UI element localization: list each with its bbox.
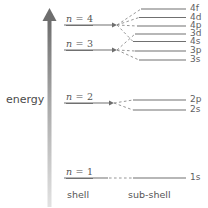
shell-label-n2: n = 2	[66, 92, 93, 104]
subshell-label-1s: 1s	[190, 173, 200, 182]
branch-origin-markers	[109, 23, 117, 106]
subshell-label-2s: 2s	[190, 105, 200, 114]
subshell-label-2p: 2p	[190, 95, 201, 104]
shell-label-n1: n = 1	[66, 167, 93, 179]
energy-arrow	[43, 8, 57, 207]
subshell-level-lines	[133, 9, 186, 178]
energy-level-diagram: energy n = 4 n = 3 n = 2 n = 1 4f 4d 4p …	[0, 0, 208, 208]
connectors-n3	[117, 34, 139, 60]
subshell-label-3s: 3s	[190, 55, 200, 64]
shell-label-n3: n = 3	[66, 39, 93, 51]
shell-label-n4: n = 4	[66, 14, 93, 26]
connectors-n4	[117, 9, 141, 42]
column-caption-subshell: sub-shell	[128, 190, 171, 200]
connectors-n2	[114, 100, 133, 110]
column-caption-shell: shell	[67, 190, 89, 200]
energy-axis-label: energy	[6, 94, 44, 105]
